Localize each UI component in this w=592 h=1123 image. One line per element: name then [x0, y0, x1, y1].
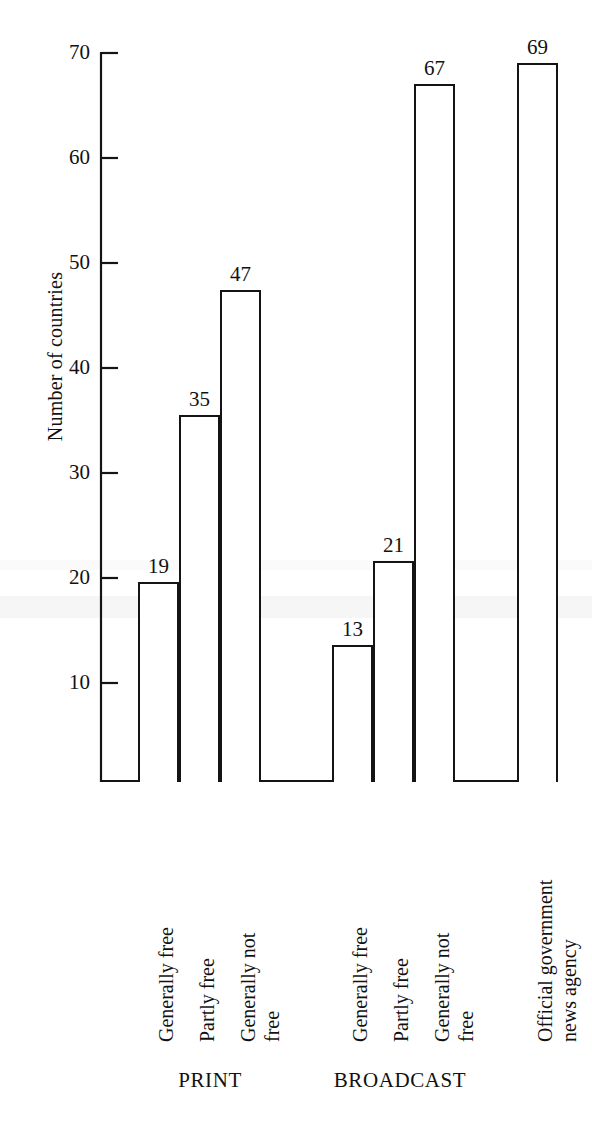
group-label-broadcast: BROADCAST	[300, 1068, 500, 1093]
category-label-print-generally-free: Generally free	[155, 927, 178, 1042]
category-label-print-generally-not-line2: free	[261, 1011, 284, 1042]
bar-value-broadcast-generally-not-free: 67	[404, 58, 465, 79]
category-label-official-government: Official government	[534, 880, 557, 1042]
y-tick-label-50: 50	[44, 252, 90, 273]
bar-value-print-generally-not-free: 47	[210, 264, 271, 285]
category-label-broadcast-generally-not: Generally not	[431, 933, 454, 1042]
bar-broadcast-generally-not-free[interactable]	[414, 84, 455, 782]
group-label-print: PRINT	[130, 1068, 290, 1093]
y-tick-label-30: 30	[44, 462, 90, 483]
bar-chart-figure: Number of countries 70 60 50 40 30 20 10…	[0, 0, 592, 1123]
y-tick-label-60: 60	[44, 147, 90, 168]
category-label-print-generally-not: Generally not	[237, 933, 260, 1042]
bar-broadcast-partly-free[interactable]	[373, 561, 414, 782]
y-tick-label-70: 70	[44, 42, 90, 63]
y-tick-label-40: 40	[44, 357, 90, 378]
category-label-broadcast-generally-free: Generally free	[349, 927, 372, 1042]
bar-print-generally-free[interactable]	[138, 582, 179, 782]
bar-print-partly-free[interactable]	[179, 415, 220, 782]
y-tick-label-20: 20	[44, 567, 90, 588]
category-label-official-government-line2: news agency	[558, 939, 581, 1042]
bar-official-government-news-agency[interactable]	[517, 63, 558, 782]
y-tick-label-10: 10	[44, 672, 90, 693]
bar-value-official-government-news-agency: 69	[507, 37, 568, 58]
category-label-broadcast-partly-free: Partly free	[390, 958, 413, 1042]
category-label-print-partly-free: Partly free	[196, 958, 219, 1042]
category-label-broadcast-generally-not-line2: free	[455, 1011, 478, 1042]
bar-broadcast-generally-free[interactable]	[332, 645, 373, 782]
bar-print-generally-not-free[interactable]	[220, 290, 261, 782]
plot-area: 70 60 50 40 30 20 10 19 35 47 13 21 67 6…	[0, 0, 592, 1123]
